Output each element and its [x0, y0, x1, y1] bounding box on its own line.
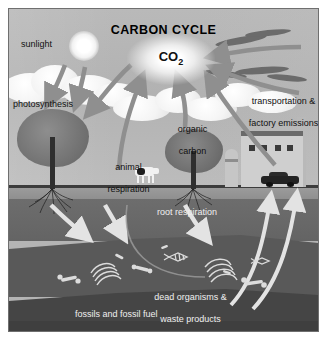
- fish-fossil: [164, 253, 269, 264]
- label-root-respiration: root respiration: [157, 207, 217, 218]
- label-photosynthesis: photosynthesis: [13, 99, 73, 110]
- label-transportation-factory-emissions: transportation & factory emissions: [231, 85, 319, 140]
- label-dead-organisms: dead organisms & waste products: [133, 281, 233, 332]
- carbon-cycle-diagram: CO2 CARBON CYCLE sunlight photosynthesis…: [8, 8, 319, 332]
- label-line: waste products: [160, 314, 221, 324]
- label-line: transportation &: [252, 96, 316, 106]
- co2-text: CO: [159, 49, 179, 64]
- label-line: animal: [115, 162, 142, 172]
- label-fossils-fossil-fuel: fossils and fossil fuel: [75, 309, 158, 320]
- diagram-scene: CO2 CARBON CYCLE sunlight photosynthesis…: [9, 9, 318, 331]
- label-line: carbon: [179, 146, 207, 156]
- label-sunlight: sunlight: [21, 39, 52, 50]
- label-line: organic: [178, 124, 208, 134]
- label-organic-carbon: organic carbon: [157, 113, 213, 168]
- co2-subscript: 2: [178, 57, 183, 67]
- label-animal-respiration: animal respiration: [91, 151, 151, 206]
- label-line: dead organisms &: [154, 292, 227, 302]
- fossil-extraction-arrow: [231, 193, 297, 309]
- co2-label: CO2: [141, 49, 201, 67]
- label-line: respiration: [107, 184, 149, 194]
- tree-roots: [29, 189, 73, 214]
- photosynthesis-arrow: [87, 65, 131, 115]
- label-line: factory emissions: [249, 118, 319, 128]
